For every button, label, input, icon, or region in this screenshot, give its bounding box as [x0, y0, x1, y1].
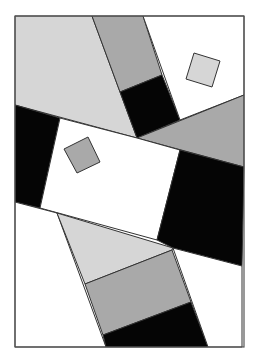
artwork-canvas	[0, 0, 253, 360]
shapes-group	[15, 16, 244, 347]
abstract-composition	[0, 0, 253, 360]
